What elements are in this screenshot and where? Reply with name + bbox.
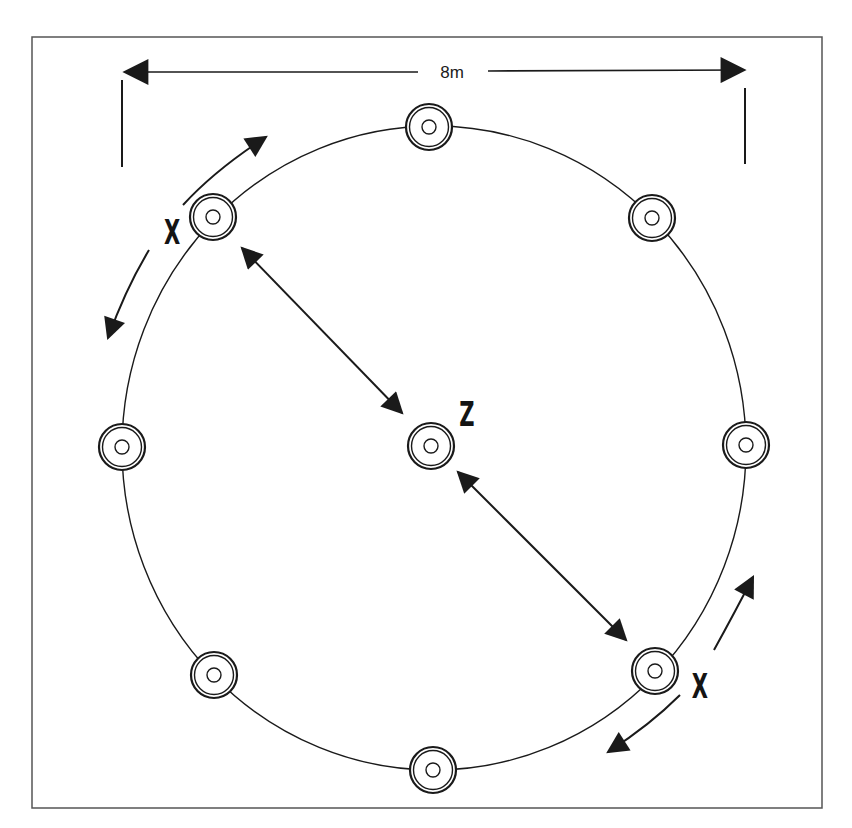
cone-top-right bbox=[629, 195, 675, 241]
dimension-arrow-right bbox=[488, 70, 744, 71]
cone-top bbox=[406, 104, 452, 150]
run-arrow-top-left-down bbox=[108, 250, 149, 338]
cone-center bbox=[408, 423, 454, 469]
player-x-bottom-right: X bbox=[692, 667, 708, 707]
drill-diagram: 8m X X Z bbox=[0, 0, 852, 828]
cones bbox=[99, 104, 769, 793]
player-x-top-left: X bbox=[164, 213, 180, 253]
pass-arrow-lower bbox=[458, 472, 626, 640]
player-z-center: Z bbox=[459, 395, 474, 435]
run-arrow-top-left-up bbox=[183, 137, 266, 205]
run-arrow-bottom-right-up bbox=[714, 577, 753, 650]
pass-arrow-upper bbox=[242, 248, 402, 413]
run-arrow-bottom-right-down bbox=[608, 695, 680, 752]
cone-top-left bbox=[190, 194, 236, 240]
cone-bottom-right bbox=[632, 648, 678, 694]
cone-left bbox=[99, 424, 145, 470]
cone-bottom bbox=[410, 747, 456, 793]
cone-right bbox=[723, 422, 769, 468]
cone-bottom-left bbox=[191, 652, 237, 698]
dimension-label: 8m bbox=[440, 63, 464, 82]
